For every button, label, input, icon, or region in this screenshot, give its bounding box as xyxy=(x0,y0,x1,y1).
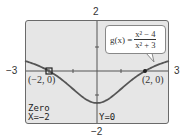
zero-label-right: (2, 0) xyxy=(142,74,164,85)
function-label: g(x) = xyxy=(110,35,132,45)
numerator: x² − 4 xyxy=(134,29,156,40)
zero-point-marker xyxy=(143,69,147,73)
y-readout: Y=0 xyxy=(99,112,115,122)
x-readout: X=−2 xyxy=(28,112,50,122)
denominator: x² + 3 xyxy=(135,40,155,50)
callout-pointer xyxy=(146,53,154,62)
function-fraction: x² − 4 x² + 3 xyxy=(134,29,156,50)
function-callout: g(x) = x² − 4 x² + 3 xyxy=(105,25,166,54)
zero-label-left: (−2, 0) xyxy=(28,74,55,85)
